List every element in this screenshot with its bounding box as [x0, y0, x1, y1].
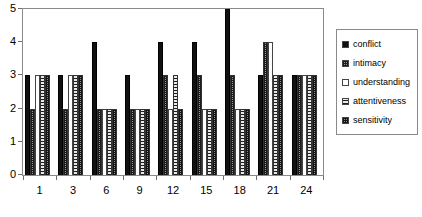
legend-label: conflict — [353, 40, 381, 49]
y-tick-label: 4 — [10, 36, 16, 47]
bar — [45, 75, 50, 175]
x-tick-mark — [323, 176, 324, 180]
bar — [245, 109, 250, 175]
bar — [178, 109, 183, 175]
x-tick-label: 21 — [267, 184, 279, 196]
x-tick-mark — [123, 176, 124, 180]
x-tick-label: 3 — [70, 184, 76, 196]
legend-swatch-icon — [342, 60, 349, 67]
bar-group — [192, 9, 221, 175]
legend-label: sensitivity — [353, 116, 392, 125]
bar-group — [125, 9, 154, 175]
x-tick-label: 1 — [37, 184, 43, 196]
x-tick-mark — [90, 176, 91, 180]
x-tick-mark — [23, 176, 24, 180]
bar-group — [258, 9, 287, 175]
y-tick-label: 0 — [10, 169, 16, 180]
legend-swatch-icon — [342, 41, 349, 48]
bar-group — [58, 9, 87, 175]
y-tick-label: 2 — [10, 102, 16, 113]
x-tick-mark — [290, 176, 291, 180]
legend: conflictintimacyunderstandingattentivene… — [336, 29, 418, 135]
legend-item: understanding — [342, 73, 413, 92]
bar-group — [292, 9, 321, 175]
legend-item: intimacy — [342, 54, 413, 73]
x-tick-mark — [190, 176, 191, 180]
legend-item: sensitivity — [342, 111, 413, 130]
bar-group — [225, 9, 254, 175]
bar — [278, 75, 283, 175]
legend-label: attentiveness — [353, 97, 406, 106]
bar — [145, 109, 150, 175]
x-tick-mark — [256, 176, 257, 180]
plot-bars-layer — [23, 9, 323, 175]
y-tick-label: 3 — [10, 69, 16, 80]
legend-swatch-icon — [342, 79, 349, 86]
bar — [312, 75, 317, 175]
x-tick-label: 24 — [300, 184, 312, 196]
x-tick-mark — [56, 176, 57, 180]
y-axis: 012345 — [0, 8, 18, 176]
legend-item: attentiveness — [342, 92, 413, 111]
bar-chart: 012345 conflictintimacyunderstandingatte… — [0, 0, 422, 217]
bar-group — [158, 9, 187, 175]
legend-label: intimacy — [353, 59, 386, 68]
bar-group — [92, 9, 121, 175]
y-tick-label: 5 — [10, 3, 16, 14]
bar — [78, 75, 83, 175]
bar — [212, 109, 217, 175]
caption-strip — [10, 208, 410, 214]
legend-label: understanding — [353, 78, 410, 87]
x-tick-mark — [223, 176, 224, 180]
x-tick-label: 6 — [103, 184, 109, 196]
x-tick-mark — [156, 176, 157, 180]
x-tick-label: 12 — [167, 184, 179, 196]
legend-swatch-icon — [342, 98, 349, 105]
legend-item: conflict — [342, 35, 413, 54]
legend-swatch-icon — [342, 117, 349, 124]
y-tick-label: 1 — [10, 135, 16, 146]
x-tick-label: 9 — [137, 184, 143, 196]
bar — [112, 109, 117, 175]
x-tick-label: 18 — [234, 184, 246, 196]
x-tick-label: 15 — [200, 184, 212, 196]
bar-group — [25, 9, 54, 175]
